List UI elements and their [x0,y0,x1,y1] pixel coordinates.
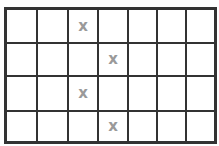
grid-cell-r0-c1[interactable] [38,10,69,44]
grid-cell-r0-c2[interactable]: x [69,10,99,44]
grid-cell-r3-c4[interactable] [129,112,158,141]
grid-cell-r2-c3[interactable] [99,77,129,112]
grid-cell-r1-c4[interactable] [129,44,158,77]
grid-cell-r2-c5[interactable] [158,77,187,112]
grid-cell-r2-c0[interactable] [7,77,38,112]
grid-cell-r3-c0[interactable] [7,112,38,141]
grid-cell-r3-c1[interactable] [38,112,69,141]
grid-cell-r2-c6[interactable] [187,77,216,112]
grid-cell-r1-c0[interactable] [7,44,38,77]
grid-cell-r1-c5[interactable] [158,44,187,77]
grid-cell-r0-c4[interactable] [129,10,158,44]
grid-cell-r2-c4[interactable] [129,77,158,112]
grid-cell-r1-c2[interactable] [69,44,99,77]
grid-cell-r3-c3[interactable]: x [99,112,129,141]
grid-cell-r3-c2[interactable] [69,112,99,141]
grid-cell-r3-c5[interactable] [158,112,187,141]
grid-cell-r1-c6[interactable] [187,44,216,77]
grid-cell-r0-c5[interactable] [158,10,187,44]
grid-cell-r0-c6[interactable] [187,10,216,44]
grid-cell-r2-c2[interactable]: x [69,77,99,112]
grid-cell-r1-c1[interactable] [38,44,69,77]
grid-board: xxxx [4,7,217,144]
grid-cell-r0-c3[interactable] [99,10,129,44]
grid-cell-r2-c1[interactable] [38,77,69,112]
grid-cell-r3-c6[interactable] [187,112,216,141]
grid-cell-r0-c0[interactable] [7,10,38,44]
grid-cell-r1-c3[interactable]: x [99,44,129,77]
